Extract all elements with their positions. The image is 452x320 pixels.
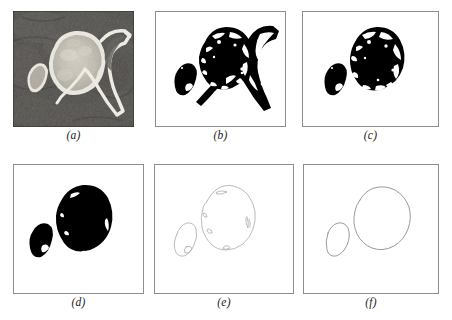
figure-container: (a) — [0, 0, 452, 320]
panel-b-caption: (b) — [155, 129, 286, 141]
panel-a-ct-slice — [13, 11, 134, 127]
boundary-smoothed-image — [304, 165, 438, 293]
panel-c-opening — [302, 11, 439, 127]
binary-filled-image — [14, 165, 143, 293]
panel-a-caption: (a) — [13, 129, 134, 141]
panel-b-threshold — [155, 11, 286, 127]
boundary-extracted-image — [155, 165, 293, 293]
panel-e-caption: (e) — [154, 296, 294, 308]
panel-d-caption: (d) — [13, 296, 144, 308]
panel-f-caption: (f) — [303, 296, 439, 308]
panel-c-caption: (c) — [302, 129, 439, 141]
panel-f-smoothed — [303, 164, 439, 294]
panel-e-boundary — [154, 164, 294, 294]
ct-slice-image — [13, 11, 134, 127]
panel-d-closing — [13, 164, 144, 294]
binary-threshold-image — [156, 12, 285, 126]
binary-opening-image — [303, 12, 438, 126]
